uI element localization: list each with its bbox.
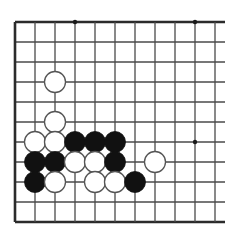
go-board-diagram (0, 0, 225, 240)
black-stone-c5-r6[interactable] (105, 132, 126, 153)
black-stone-c1-r8[interactable] (25, 172, 46, 193)
black-stone-c4-r6[interactable] (85, 132, 106, 153)
white-stone-c2-r6[interactable] (45, 132, 66, 153)
white-stone-c4-r8[interactable] (85, 172, 106, 193)
goban[interactable] (0, 0, 225, 240)
star-point-top-right (193, 20, 197, 24)
black-stone-c2-r7[interactable] (45, 152, 66, 173)
black-stone-c1-r7[interactable] (25, 152, 46, 173)
black-stone-c6-r8[interactable] (125, 172, 146, 193)
white-stone-c1-r6[interactable] (25, 132, 46, 153)
white-stone-c3-r7[interactable] (65, 152, 86, 173)
white-stone-c5-r8[interactable] (105, 172, 126, 193)
black-stone-c3-r6[interactable] (65, 132, 86, 153)
star-point-top-left (73, 20, 77, 24)
white-stone-c2-r8[interactable] (45, 172, 66, 193)
white-stone-c2-r5[interactable] (45, 112, 66, 133)
white-stone-c4-r7[interactable] (85, 152, 106, 173)
white-stone-c7-r7[interactable] (145, 152, 166, 173)
star-point-right (193, 140, 197, 144)
white-stone-c3-r3[interactable] (45, 72, 66, 93)
black-stone-c5-r7[interactable] (105, 152, 126, 173)
